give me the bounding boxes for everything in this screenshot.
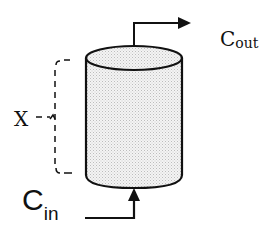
arrow-right-icon (178, 17, 191, 29)
inlet-arrow (85, 188, 140, 218)
column-cylinder (86, 46, 182, 188)
outlet-arrow (134, 17, 191, 46)
x-label: X (14, 107, 29, 131)
length-bracket (36, 60, 72, 173)
column-diagram: Cout X Cin (0, 0, 273, 231)
arrow-up-icon (128, 188, 140, 201)
c-out-label: Cout (220, 27, 259, 51)
c-in-label: Cin (22, 183, 58, 224)
